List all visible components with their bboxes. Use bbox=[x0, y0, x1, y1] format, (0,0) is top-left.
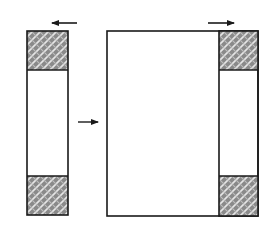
left-strip-top-hatch bbox=[27, 31, 68, 70]
left-strip bbox=[27, 31, 68, 215]
diagram-svg bbox=[0, 0, 274, 227]
right-strip-bottom-hatch bbox=[219, 176, 258, 216]
right-strip-top-hatch bbox=[219, 31, 258, 70]
left-strip-bottom-hatch bbox=[27, 176, 68, 215]
diagram-canvas bbox=[0, 0, 274, 227]
